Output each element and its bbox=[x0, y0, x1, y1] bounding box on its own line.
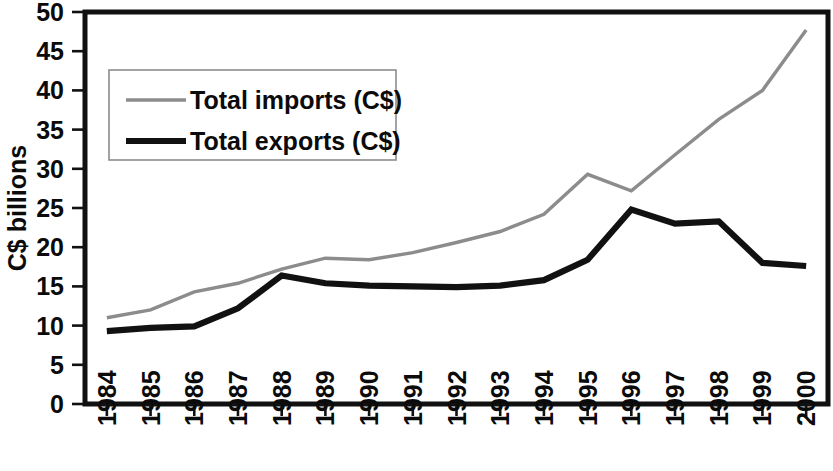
x-tick-label: 1984 bbox=[93, 370, 121, 426]
y-tick-label: 25 bbox=[36, 194, 64, 222]
y-tick-label: 40 bbox=[36, 76, 64, 104]
y-axis-title: C$ billions bbox=[3, 145, 31, 271]
x-tick-label: 1990 bbox=[355, 370, 383, 426]
y-tick-label: 50 bbox=[36, 0, 64, 26]
y-tick-label: 5 bbox=[50, 351, 64, 379]
legend-label-exports: Total exports (C$) bbox=[190, 127, 401, 155]
y-tick-label: 30 bbox=[36, 155, 64, 183]
legend-label-imports: Total imports (C$) bbox=[190, 86, 402, 114]
x-tick-label: 1987 bbox=[224, 370, 252, 426]
x-tick-label: 1986 bbox=[180, 370, 208, 426]
x-tick-label: 1993 bbox=[486, 370, 514, 426]
y-axis-tick-labels: 05101520253035404550 bbox=[36, 0, 64, 418]
x-tick-label: 1985 bbox=[137, 370, 165, 426]
y-tick-label: 0 bbox=[50, 390, 64, 418]
y-tick-label: 45 bbox=[36, 37, 64, 65]
x-tick-label: 1995 bbox=[574, 370, 602, 426]
x-tick-label: 1999 bbox=[748, 370, 776, 426]
x-tick-label: 1991 bbox=[399, 370, 427, 426]
line-chart: 05101520253035404550 C$ billions 1984198… bbox=[0, 0, 833, 471]
x-tick-label: 1998 bbox=[705, 370, 733, 426]
x-tick-label: 2000 bbox=[792, 370, 820, 426]
x-tick-label: 1996 bbox=[617, 370, 645, 426]
y-tick-label: 20 bbox=[36, 233, 64, 261]
chart-legend: Total imports (C$)Total exports (C$) bbox=[109, 70, 402, 160]
x-tick-label: 1994 bbox=[530, 370, 558, 426]
y-tick-label: 35 bbox=[36, 116, 64, 144]
x-tick-label: 1989 bbox=[311, 370, 339, 426]
x-axis-tick-labels: 1984198519861987198819891990199119921993… bbox=[93, 370, 820, 426]
x-tick-label: 1997 bbox=[661, 370, 689, 426]
y-tick-label: 15 bbox=[36, 272, 64, 300]
x-tick-label: 1988 bbox=[268, 370, 296, 426]
chart-container: 05101520253035404550 C$ billions 1984198… bbox=[0, 0, 833, 471]
x-tick-label: 1992 bbox=[443, 370, 471, 426]
y-tick-label: 10 bbox=[36, 312, 64, 340]
